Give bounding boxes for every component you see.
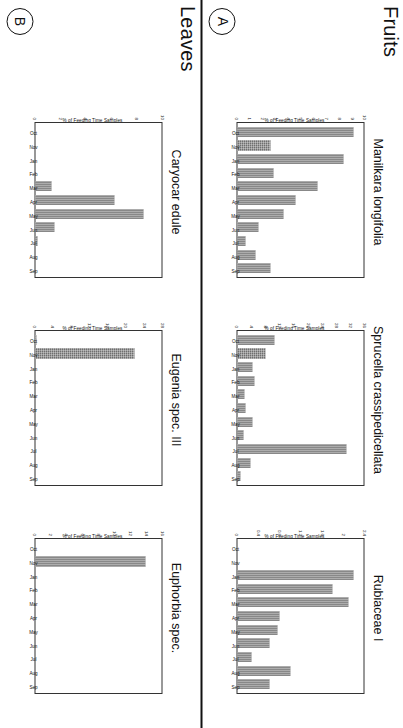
y-tick-label: 4 xyxy=(285,118,290,120)
bar xyxy=(35,556,145,566)
y-tick-label: 1.2 xyxy=(298,530,303,536)
bar xyxy=(238,181,317,191)
x-tick-cell: Sep xyxy=(18,470,34,484)
x-tick-cell: Jun xyxy=(18,429,34,443)
y-tick-label: 28 xyxy=(160,323,165,328)
bar-slot xyxy=(238,415,364,429)
x-tick-label: Sep xyxy=(29,477,37,482)
x-tick-label: Mar xyxy=(232,602,240,607)
bar-slot xyxy=(238,541,364,555)
bar-slot xyxy=(35,234,161,248)
bar-slot xyxy=(238,636,364,650)
x-tick-cell: Jun xyxy=(18,221,34,235)
x-tick-cell: Jan xyxy=(221,152,237,166)
y-tick-label: 4 xyxy=(83,118,88,120)
bar xyxy=(238,611,280,621)
x-tick-label: Jan xyxy=(29,575,36,580)
figure-canvas: Fruits A Manilkara longifolia% of Feedin… xyxy=(0,0,403,728)
bar-slot xyxy=(35,677,161,691)
y-tick-label: 2 xyxy=(57,118,62,120)
bar-slot xyxy=(35,428,161,442)
x-tick-label: May xyxy=(29,214,38,219)
bar-slot xyxy=(35,469,161,483)
plot-area: 04812162024283236 xyxy=(237,314,365,486)
panel-a-charts: Manilkara longifolia% of Feeding Time Sa… xyxy=(203,0,403,728)
x-tick-cell: Jan xyxy=(18,152,34,166)
y-tick-label: 7 xyxy=(324,118,329,120)
bar-slot xyxy=(35,456,161,470)
bar xyxy=(238,570,354,580)
x-tick-label: Sep xyxy=(231,477,239,482)
x-tick-cell: Aug xyxy=(18,664,34,678)
y-tick-label: 16 xyxy=(291,323,296,328)
x-tick-label: Nov xyxy=(231,561,239,566)
x-tick-cell: Jan xyxy=(221,568,237,582)
y-axis-ticks: 04812162024283236 xyxy=(237,314,365,330)
x-tick-cell: May xyxy=(221,623,237,637)
y-tick-label: 32 xyxy=(348,323,353,328)
y-tick-label: 0 xyxy=(234,326,239,328)
bar xyxy=(238,195,296,205)
x-tick-cell: Feb xyxy=(18,373,34,387)
y-tick-label: 12 xyxy=(86,323,91,328)
x-tick-label: Jan xyxy=(232,367,239,372)
x-tick-cell: Apr xyxy=(18,609,34,623)
bar xyxy=(238,335,275,345)
y-tick-label: 0 xyxy=(234,118,239,120)
x-tick-label: Jun xyxy=(232,436,239,441)
x-tick-label: Feb xyxy=(29,588,37,593)
bar-slot xyxy=(35,415,161,429)
y-tick-label: 6 xyxy=(80,534,85,536)
x-tick-cell: Jun xyxy=(221,221,237,235)
x-tick-cell: Feb xyxy=(221,373,237,387)
bar xyxy=(238,168,273,178)
bar xyxy=(238,376,254,386)
plot-frame xyxy=(34,122,162,278)
bar-slot xyxy=(238,664,364,678)
bar xyxy=(238,348,265,358)
x-tick-cell: Jul xyxy=(18,443,34,457)
y-tick-label: 8 xyxy=(336,118,341,120)
x-tick-cell: Oct xyxy=(18,332,34,346)
x-tick-cell: Aug xyxy=(221,456,237,470)
x-tick-label: Jun xyxy=(29,436,36,441)
x-tick-label: Sep xyxy=(29,685,37,690)
x-tick-cell: Nov xyxy=(18,138,34,152)
x-tick-label: Aug xyxy=(231,255,239,260)
x-tick-cell: May xyxy=(221,207,237,221)
x-tick-label: Jul xyxy=(30,241,36,246)
x-tick-label: May xyxy=(29,422,38,427)
y-tick-label: 24 xyxy=(319,323,324,328)
bar-slot xyxy=(238,456,364,470)
panel-tag-a: A xyxy=(209,8,236,35)
bar-slot xyxy=(35,152,161,166)
plot-frame xyxy=(237,538,365,694)
x-tick-label: Aug xyxy=(29,255,37,260)
bar-slot xyxy=(35,248,161,262)
x-tick-label: Jul xyxy=(233,449,239,454)
bar xyxy=(238,625,277,635)
x-tick-cell: Apr xyxy=(221,401,237,415)
x-tick-cell: Oct xyxy=(18,540,34,554)
x-tick-cell: May xyxy=(18,207,34,221)
y-axis-ticks: 0481216202428 xyxy=(34,314,162,330)
bar-slot xyxy=(238,582,364,596)
chart-title: Rubiaceae I xyxy=(371,522,385,694)
x-tick-cell: Jun xyxy=(221,637,237,651)
y-tick-label: 0 xyxy=(32,118,37,120)
y-tick-label: 5 xyxy=(298,118,303,120)
bar-slot xyxy=(238,677,364,691)
x-tick-label: Mar xyxy=(232,394,240,399)
y-tick-label: 12 xyxy=(128,531,133,536)
y-tick-label: 14 xyxy=(144,531,149,536)
bar-slot xyxy=(35,261,161,275)
bar-slot xyxy=(238,650,364,664)
bar xyxy=(238,263,271,273)
y-tick-label: 16 xyxy=(105,323,110,328)
x-tick-cell: Mar xyxy=(18,387,34,401)
x-tick-label: Mar xyxy=(29,394,37,399)
x-tick-label: Aug xyxy=(29,671,37,676)
x-tick-cell: Oct xyxy=(18,124,34,138)
bar-slot xyxy=(238,248,364,262)
bar-slot xyxy=(35,347,161,361)
